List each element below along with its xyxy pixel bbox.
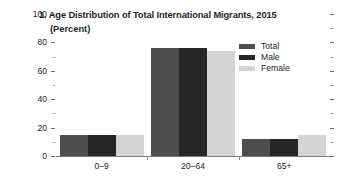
- x-group-separator-tick: [239, 156, 240, 160]
- bar-total: [60, 135, 88, 156]
- legend-item[interactable]: Female: [239, 63, 290, 74]
- y-tick-label: 40: [37, 94, 47, 104]
- x-group-separator-tick: [147, 156, 148, 160]
- y-tick-label: 80: [37, 37, 47, 47]
- bar-total: [242, 139, 270, 156]
- legend-swatch-icon: [239, 66, 255, 71]
- y-tick-minor: [53, 142, 56, 143]
- legend-swatch-icon: [239, 55, 255, 60]
- chart-legend: TotalMaleFemale: [239, 41, 290, 74]
- y-tick-minor: [53, 28, 56, 29]
- y-tick-major: [51, 14, 55, 15]
- y-tick-minor: [53, 85, 56, 86]
- bar-group: [151, 14, 235, 156]
- y-tick-major-right: [330, 14, 334, 15]
- legend-item[interactable]: Total: [239, 41, 290, 52]
- chart-container: 1. Age Distribution of Total Internation…: [0, 0, 346, 186]
- y-tick-major: [51, 42, 55, 43]
- bar-male: [88, 135, 116, 156]
- x-category-label: 65+: [277, 161, 292, 171]
- y-tick-label: 100: [33, 9, 47, 19]
- x-category-label: 0–9: [94, 161, 108, 171]
- legend-label: Female: [261, 63, 290, 74]
- bar-female: [298, 135, 326, 156]
- plot-area: [56, 14, 330, 156]
- legend-swatch-icon: [239, 44, 255, 49]
- y-tick-label: 20: [37, 123, 47, 133]
- bar-male: [179, 48, 207, 156]
- y-tick-minor-right: [330, 57, 333, 58]
- y-tick-minor-right: [330, 113, 333, 114]
- bar-total: [151, 48, 179, 156]
- bar-female: [116, 135, 144, 156]
- y-tick-minor: [53, 57, 56, 58]
- bar-group: [242, 14, 326, 156]
- legend-label: Total: [261, 41, 279, 52]
- x-category-label: 20–64: [181, 161, 205, 171]
- y-tick-minor-right: [330, 28, 333, 29]
- y-tick-minor-right: [330, 142, 333, 143]
- y-tick-major: [51, 71, 55, 72]
- legend-label: Male: [261, 52, 280, 63]
- y-tick-label: 60: [37, 66, 47, 76]
- bar-female: [207, 51, 235, 156]
- y-tick-major: [51, 128, 55, 129]
- y-tick-major: [51, 156, 55, 157]
- y-tick-major-right: [330, 156, 334, 157]
- y-tick-label: 0: [42, 151, 47, 161]
- y-tick-major-right: [330, 128, 334, 129]
- y-tick-major-right: [330, 71, 334, 72]
- bar-male: [270, 139, 298, 156]
- bar-group: [60, 14, 144, 156]
- y-tick-minor: [53, 113, 56, 114]
- legend-item[interactable]: Male: [239, 52, 290, 63]
- x-axis-line: [56, 156, 330, 157]
- y-tick-major-right: [330, 42, 334, 43]
- y-tick-major-right: [330, 99, 334, 100]
- y-tick-major: [51, 99, 55, 100]
- y-tick-minor-right: [330, 85, 333, 86]
